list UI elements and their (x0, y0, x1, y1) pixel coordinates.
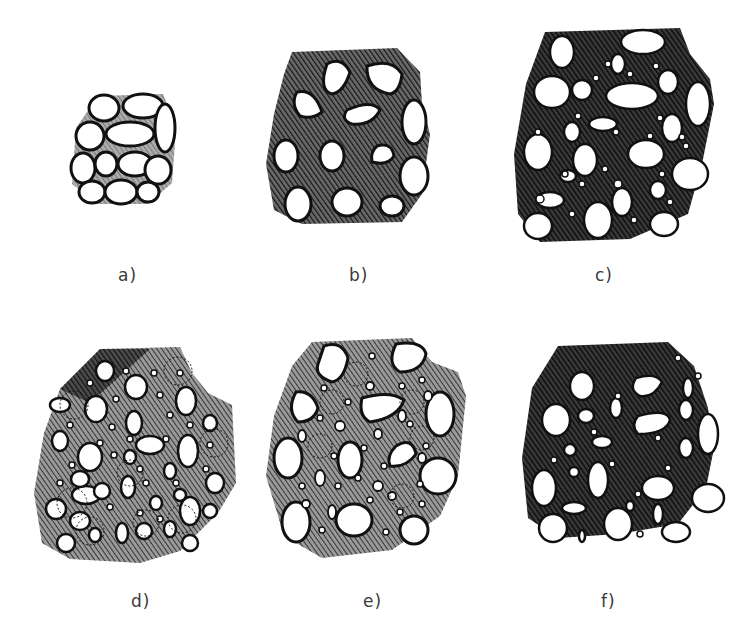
panel-c-coarse-fine-dense-binder (510, 24, 720, 242)
panel-b-coarse-in-binder (262, 44, 440, 226)
panel-f-label: f) (601, 591, 616, 611)
panel-d-label: d) (131, 591, 150, 611)
panel-e-mixed-light-binder (262, 336, 468, 558)
panel-a-label: a) (118, 265, 137, 285)
panel-d-well-graded-light-binder (30, 343, 240, 563)
aggregate-packing-illustration (68, 88, 178, 208)
coarse-aggregate-binder-illustration (262, 44, 440, 226)
panel-b-label: b) (349, 265, 368, 285)
panel-e-label: e) (363, 591, 382, 611)
panel-c-label: c) (595, 265, 613, 285)
well-graded-aggregate-illustration (30, 343, 240, 563)
dense-binder-aggregate-illustration (518, 338, 718, 540)
coarse-fine-aggregate-binder-illustration (510, 24, 720, 242)
mixed-aggregate-illustration (262, 336, 468, 558)
panel-f-dense-binder-coarse-fine (518, 338, 718, 540)
panel-a-aggregate-only (68, 88, 178, 208)
